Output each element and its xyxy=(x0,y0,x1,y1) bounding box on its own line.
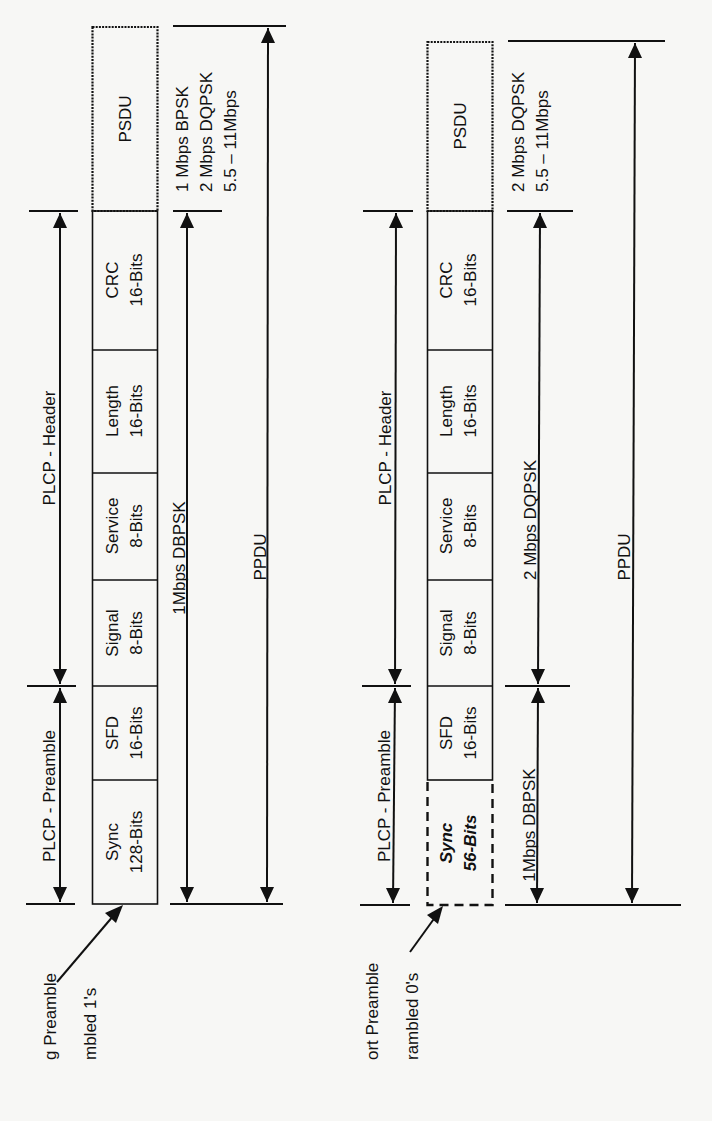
sfd-field-bits: 16-Bits xyxy=(461,707,480,760)
preamble-rate-label: 1Mbps DBPSK xyxy=(520,768,539,882)
psdu-rates: 2 Mbps DQPSK 5.5 – 11Mbps xyxy=(509,71,552,192)
length-field: Length 16-Bits xyxy=(103,385,146,438)
length-field-name: Length xyxy=(103,385,122,437)
crc-field-bits: 16-Bits xyxy=(127,254,146,307)
callout-line-1: ɡ Preamble xyxy=(41,973,60,1060)
arrow-head-up-icon xyxy=(533,213,547,228)
arrow-head-up-icon xyxy=(261,28,275,43)
short-preamble-frame: PSDU CRC 16-Bits Length 16-Bits Service … xyxy=(360,41,681,1060)
crc-field: CRC 16-Bits xyxy=(437,254,480,307)
psdu-rate-2: 5.5 – 11Mbps xyxy=(533,90,552,192)
arrow-head-up-icon xyxy=(388,688,402,703)
sync-field-name: Sync xyxy=(437,822,456,863)
signal-field-bits: 8-Bits xyxy=(461,611,480,654)
plcp-header-label: PLCP - Header xyxy=(376,390,395,505)
callout-arrow-icon xyxy=(427,906,443,924)
arrow-head-up-icon xyxy=(628,43,642,58)
ppdu-label: PPDU xyxy=(251,533,270,580)
psdu-rate-2: 2 Mbps DQPSK xyxy=(197,71,216,192)
psdu-rate-1: 1 Mbps BPSK xyxy=(173,86,192,192)
callout-line-2: mbled 1's xyxy=(81,988,100,1060)
psdu-rate-3: 5.5 – 11Mbps xyxy=(221,90,240,192)
length-field-bits: 16-Bits xyxy=(127,385,146,438)
service-field-name: Service xyxy=(103,498,122,555)
length-field: Length 16-Bits xyxy=(437,385,480,438)
crc-field: CRC 16-Bits xyxy=(103,254,146,307)
sync-field-bits: 56-Bits xyxy=(461,815,480,872)
callout-line-1: ort Preamble xyxy=(363,963,382,1060)
sfd-field: SFD 16-Bits xyxy=(437,707,480,760)
signal-field: Signal 8-Bits xyxy=(103,609,146,656)
rate-span-arrow: 1Mbps DBPSK xyxy=(170,211,222,902)
arrow-head-down-icon xyxy=(180,887,194,902)
callout-arrow-icon xyxy=(105,905,123,923)
arrow-head-down-icon xyxy=(260,887,274,902)
sfd-field-name: SFD xyxy=(437,716,456,750)
sfd-field-bits: 16-Bits xyxy=(127,707,146,760)
sync-field: Sync 128-Bits xyxy=(103,811,146,873)
arrow-head-up-icon xyxy=(180,213,194,228)
signal-field-name: Signal xyxy=(103,609,122,656)
long-preamble-frame: PSDU CRC 16-Bits Length 16-Bits Service … xyxy=(26,26,286,1060)
short-preamble-callout: ort Preamble rambled 0's xyxy=(363,906,443,1060)
plcp-span-arrows: PLCP - Header PLCP - Preamble xyxy=(26,211,78,904)
signal-field-bits: 8-Bits xyxy=(127,611,146,654)
sync-field-bits: 128-Bits xyxy=(127,811,146,873)
signal-field: Signal 8-Bits xyxy=(437,609,480,656)
psdu-field-label: PSDU xyxy=(451,102,470,149)
header-rate-label: 2 Mbps DQPSK xyxy=(521,459,540,580)
arrow-head-up-icon xyxy=(389,213,403,228)
callout-line-2: rambled 0's xyxy=(403,973,422,1060)
plcp-header-label: PLCP - Header xyxy=(40,390,59,505)
service-field: Service 8-Bits xyxy=(103,498,146,555)
psdu-field-label: PSDU xyxy=(116,95,135,142)
plcp-fields-box xyxy=(93,211,158,904)
psdu-rates: 1 Mbps BPSK 2 Mbps DQPSK 5.5 – 11Mbps xyxy=(173,71,240,192)
plcp-preamble-label: PLCP - Preamble xyxy=(40,730,59,862)
field-stack: PSDU CRC 16-Bits Length 16-Bits Service … xyxy=(93,27,158,904)
crc-field-bits: 16-Bits xyxy=(461,254,480,307)
crc-field-name: CRC xyxy=(437,262,456,299)
sync-field: Sync 56-Bits xyxy=(437,815,480,872)
arrow-head-down-icon xyxy=(388,669,402,684)
length-field-name: Length xyxy=(437,385,456,437)
plcp-span-arrows: PLCP - Header PLCP - Preamble xyxy=(360,211,413,905)
sync-field-name: Sync xyxy=(103,823,122,861)
arrow-head-up-icon xyxy=(531,688,545,703)
sfd-field: SFD 16-Bits xyxy=(103,707,146,760)
service-field: Service 8-Bits xyxy=(437,498,480,555)
sfd-field-name: SFD xyxy=(103,716,122,750)
plcp-preamble-label: PLCP - Preamble xyxy=(375,730,394,862)
plcp-rate-label: 1Mbps DBPSK xyxy=(170,501,189,615)
ppdu-label: PPDU xyxy=(615,533,634,580)
arrow-head-down-icon xyxy=(625,888,639,903)
rate-span-arrows: 2 Mbps DQPSK 1Mbps DBPSK xyxy=(505,211,573,903)
arrow-head-down-icon xyxy=(530,888,544,903)
arrow-head-down-icon xyxy=(53,669,67,684)
crc-field-name: CRC xyxy=(103,262,122,299)
plcp-frame-diagram: PSDU CRC 16-Bits Length 16-Bits Service … xyxy=(0,0,712,1121)
length-field-bits: 16-Bits xyxy=(461,385,480,438)
long-preamble-callout: ɡ Preamble mbled 1's xyxy=(41,905,123,1060)
service-field-bits: 8-Bits xyxy=(461,504,480,547)
arrow-head-down-icon xyxy=(386,888,400,903)
psdu-rate-1: 2 Mbps DQPSK xyxy=(509,71,528,192)
service-field-name: Service xyxy=(437,498,456,555)
arrow-head-down-icon xyxy=(531,669,545,684)
arrow-head-down-icon xyxy=(53,887,67,902)
service-field-bits: 8-Bits xyxy=(127,504,146,547)
arrow-head-up-icon xyxy=(53,213,67,228)
arrow-head-up-icon xyxy=(53,688,67,703)
field-stack: PSDU CRC 16-Bits Length 16-Bits Service … xyxy=(428,42,493,905)
signal-field-name: Signal xyxy=(437,609,456,656)
